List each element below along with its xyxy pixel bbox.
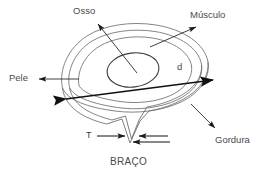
bone-ellipse <box>105 50 161 90</box>
bone-leader-arrow <box>98 24 137 73</box>
label-muscle: Músculo <box>190 10 225 20</box>
figure-caption: BRAÇO <box>110 157 147 167</box>
label-fat: Gordura <box>215 135 250 145</box>
label-thickness-symbol: T <box>86 131 92 140</box>
label-skin: Pele <box>9 73 28 83</box>
skin-left-wall <box>63 88 107 124</box>
diagram-canvas <box>0 0 261 176</box>
fat-left-wall <box>70 88 113 121</box>
arm-cross-section-figure: Osso Músculo Pele Gordura d T BRAÇO <box>0 0 261 176</box>
skinfold-pinch-outer <box>107 111 150 143</box>
muscle-layer-ellipse <box>79 37 192 103</box>
label-diameter-symbol: d <box>177 62 182 72</box>
fat-leader-arrow <box>191 104 215 128</box>
label-bone: Osso <box>73 6 95 16</box>
